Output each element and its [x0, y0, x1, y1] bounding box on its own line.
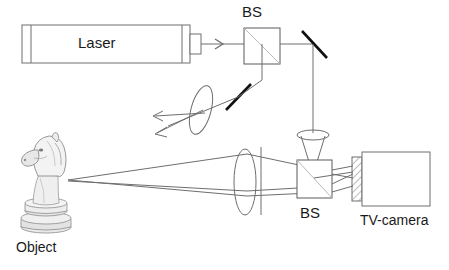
object-label: Object — [16, 240, 56, 254]
camera-sensor — [352, 157, 362, 201]
beam-splitter-bottom — [297, 160, 332, 198]
beam-splitter-top-label: BS — [242, 4, 262, 19]
laser-label: Laser — [78, 35, 116, 50]
laser-output-port — [190, 34, 201, 54]
optical-setup-diagram: Laser BS BS TV-camera Object — [0, 0, 449, 270]
imaging-lens — [234, 149, 256, 215]
lens-expander — [185, 83, 217, 136]
object-beam-cone — [68, 154, 247, 196]
tv-camera-body — [362, 152, 430, 206]
diagram-canvas — [0, 0, 449, 270]
illumination-beam-lower — [155, 110, 203, 137]
object-chess-knight — [21, 133, 71, 233]
beam-laser-to-bs — [201, 39, 244, 49]
tv-camera-label: TV-camera — [360, 213, 428, 227]
beam-splitter-bottom-label: BS — [300, 205, 320, 220]
